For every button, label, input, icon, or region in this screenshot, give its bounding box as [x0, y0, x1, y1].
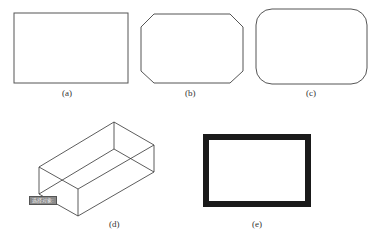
shape-rectangle [14, 13, 128, 83]
shape-chamfered-rectangle [141, 14, 243, 83]
caption-e: (e) [252, 219, 262, 229]
shape-filleted-rectangle [256, 9, 367, 84]
shape-thick-rectangle [206, 137, 308, 204]
caption-d: (d) [109, 219, 120, 229]
figure-canvas [0, 0, 379, 243]
caption-b: (b) [185, 88, 196, 98]
caption-c: (c) [306, 88, 316, 98]
caption-a: (a) [62, 88, 72, 98]
select-object-tooltip: 选择对象: [29, 196, 57, 205]
